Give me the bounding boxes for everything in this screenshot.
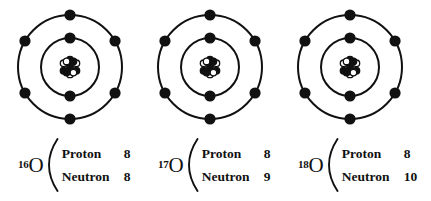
nucleon-count: 8 [398, 147, 411, 161]
nucleon-label: Neutron [62, 170, 118, 184]
electron-outer-shell-1 [344, 9, 355, 20]
nucleon-row: Neutron10 [342, 170, 418, 184]
electron-inner-shell-2 [64, 90, 75, 101]
mass-number-oxygen-16: 16 [18, 159, 29, 170]
atom-diagram-oxygen-17 [140, 2, 280, 132]
atom-wrapper-oxygen-16 [0, 2, 140, 132]
atom-wrapper-oxygen-18 [280, 2, 420, 132]
nucleon-filled-11 [63, 69, 70, 76]
nucleon-label: Neutron [202, 170, 258, 184]
isotope-group-oxygen-17: 17OProton8Neutron9 [140, 0, 280, 201]
nucleon-count: 10 [398, 170, 418, 184]
grouping-brace-oxygen-17 [185, 138, 200, 192]
nucleon-count: 8 [258, 147, 271, 161]
nucleon-hollow-10 [70, 69, 77, 76]
nucleus-cluster [340, 56, 359, 77]
nucleon-label: Neutron [342, 170, 398, 184]
electron-outer-shell-5 [159, 87, 170, 98]
nucleon-count: 8 [118, 147, 131, 161]
grouping-brace-oxygen-16 [45, 138, 60, 192]
nucleon-row: Proton8 [62, 147, 131, 161]
electron-outer-shell-6 [19, 35, 30, 46]
nucleon-filled-11 [343, 69, 350, 76]
electron-outer-shell-3 [389, 87, 400, 98]
electron-inner-shell-2 [204, 90, 215, 101]
isotope-symbol-oxygen-16: 16O [18, 155, 44, 176]
electron-inner-shell-1 [204, 32, 215, 43]
brace-stroke [49, 139, 58, 191]
electron-outer-shell-4 [64, 113, 75, 124]
nucleon-counts-oxygen-17: Proton8Neutron9 [202, 147, 271, 183]
nucleus-cluster [200, 56, 219, 77]
nucleon-hollow-10 [350, 69, 357, 76]
electron-outer-shell-4 [204, 113, 215, 124]
electron-outer-shell-2 [249, 35, 260, 46]
electron-outer-shell-6 [159, 35, 170, 46]
electron-outer-shell-1 [204, 9, 215, 20]
isotope-symbol-oxygen-17: 17O [158, 155, 184, 176]
isotope-group-oxygen-18: 18OProton8Neutron10 [280, 0, 420, 201]
element-symbol-oxygen-18: O [309, 155, 324, 176]
electron-outer-shell-3 [249, 87, 260, 98]
atom-diagram-oxygen-18 [280, 2, 420, 132]
isotope-symbol-oxygen-18: 18O [298, 155, 324, 176]
nucleon-filled-9 [350, 58, 357, 65]
electron-outer-shell-4 [344, 113, 355, 124]
nucleon-count: 9 [258, 170, 271, 184]
mass-number-oxygen-18: 18 [298, 159, 309, 170]
nucleon-row: Proton8 [202, 147, 271, 161]
isotope-label-row-oxygen-18: 18OProton8Neutron10 [280, 132, 420, 198]
electron-outer-shell-2 [109, 35, 120, 46]
nucleon-counts-oxygen-18: Proton8Neutron10 [342, 147, 418, 183]
nucleon-filled-9 [70, 58, 77, 65]
nucleon-hollow-10 [210, 69, 217, 76]
atom-diagram-oxygen-16 [0, 2, 140, 132]
nucleon-count: 8 [118, 170, 131, 184]
nucleon-filled-11 [203, 69, 210, 76]
electron-outer-shell-5 [299, 87, 310, 98]
element-symbol-oxygen-17: O [169, 155, 184, 176]
nucleon-row: Neutron8 [62, 170, 131, 184]
electron-outer-shell-2 [389, 35, 400, 46]
electron-inner-shell-1 [344, 32, 355, 43]
brace-stroke [329, 139, 338, 191]
nucleon-counts-oxygen-16: Proton8Neutron8 [62, 147, 131, 183]
nucleon-row: Neutron9 [202, 170, 271, 184]
grouping-brace-oxygen-18 [325, 138, 340, 192]
nucleon-label: Proton [202, 147, 258, 161]
element-symbol-oxygen-16: O [29, 155, 44, 176]
isotope-label-row-oxygen-17: 17OProton8Neutron9 [140, 132, 280, 198]
nucleon-filled-9 [210, 58, 217, 65]
atom-wrapper-oxygen-17 [140, 2, 280, 132]
nucleon-label: Proton [62, 147, 118, 161]
nucleon-hollow-8 [203, 58, 210, 65]
nucleus-cluster [60, 56, 79, 77]
electron-outer-shell-1 [64, 9, 75, 20]
electron-outer-shell-6 [299, 35, 310, 46]
electron-outer-shell-5 [19, 87, 30, 98]
brace-stroke [189, 139, 198, 191]
nucleon-hollow-8 [343, 58, 350, 65]
electron-inner-shell-1 [64, 32, 75, 43]
isotope-group-oxygen-16: 16OProton8Neutron8 [0, 0, 140, 201]
nucleon-label: Proton [342, 147, 398, 161]
mass-number-oxygen-17: 17 [158, 159, 169, 170]
nucleon-hollow-8 [63, 58, 70, 65]
isotope-figure: 16OProton8Neutron817OProton8Neutron918OP… [0, 0, 431, 201]
isotope-label-row-oxygen-16: 16OProton8Neutron8 [0, 132, 140, 198]
electron-inner-shell-2 [344, 90, 355, 101]
nucleon-row: Proton8 [342, 147, 418, 161]
electron-outer-shell-3 [109, 87, 120, 98]
